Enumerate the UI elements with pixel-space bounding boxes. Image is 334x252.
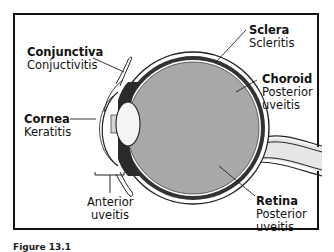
label-retina: Retina Posterior uveitis <box>256 195 307 234</box>
label-choroid: Choroid Posterior uveitis <box>262 73 313 112</box>
label-sclera: Sclera Scleritis <box>249 24 295 50</box>
figure-caption: Figure 13.1 <box>13 242 71 252</box>
condition-scleritis: Scleritis <box>249 37 295 50</box>
label-anterior-uveitis: Anterior uveitis <box>87 196 133 222</box>
label-conjunctiva: Conjunctiva Conjuctivitis <box>27 46 103 72</box>
vitreous-body <box>127 62 259 194</box>
condition-keratitis: Keratitis <box>24 126 71 139</box>
condition-conjunctivitis: Conjuctivitis <box>27 59 103 72</box>
condition-choroid-line2: uveitis <box>262 99 313 112</box>
condition-retina-line2: uveitis <box>256 221 307 234</box>
condition-anterior-line2: uveitis <box>87 209 133 222</box>
label-cornea: Cornea Keratitis <box>24 113 71 139</box>
lens <box>116 102 140 146</box>
